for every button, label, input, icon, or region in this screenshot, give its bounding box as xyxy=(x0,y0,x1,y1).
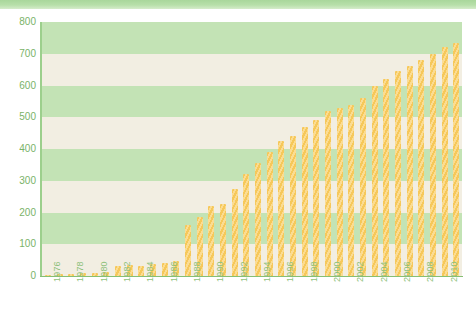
y-axis-tick-label: 100 xyxy=(2,239,36,249)
page-header-strip xyxy=(0,0,476,9)
bar xyxy=(302,127,308,276)
bar xyxy=(442,47,448,276)
x-axis-tick-label: 1978 xyxy=(75,261,85,282)
bar xyxy=(208,206,214,276)
bar xyxy=(360,98,366,276)
x-axis-tick-label: 2008 xyxy=(425,261,435,282)
bar xyxy=(383,79,389,276)
bar xyxy=(255,163,261,276)
bar xyxy=(325,111,331,276)
x-axis-tick-label: 2010 xyxy=(449,261,459,282)
x-axis-tick-label: 1996 xyxy=(285,261,295,282)
bar xyxy=(372,86,378,277)
bar xyxy=(162,263,168,276)
x-axis-tick-label: 1998 xyxy=(309,261,319,282)
x-axis-tick-label: 1990 xyxy=(215,261,225,282)
y-axis-tick-label: 600 xyxy=(2,81,36,91)
x-axis-tick-label: 2000 xyxy=(332,261,342,282)
x-axis-tick-label: 1982 xyxy=(122,261,132,282)
x-axis-tick-label: 1976 xyxy=(52,261,62,282)
y-axis-labels: 0100200300400500600700800 xyxy=(0,0,36,317)
x-axis-tick-label: 2002 xyxy=(355,261,365,282)
x-axis-tick-label: 2004 xyxy=(379,261,389,282)
bar xyxy=(138,266,144,276)
bar xyxy=(278,141,284,276)
bar xyxy=(313,120,319,276)
x-axis-tick-label: 1988 xyxy=(192,261,202,282)
grid-band xyxy=(42,22,462,54)
chart-page: 0100200300400500600700800 19761978198019… xyxy=(0,0,476,317)
y-axis-tick-label: 700 xyxy=(2,49,36,59)
bar xyxy=(115,266,121,276)
bar xyxy=(453,43,459,276)
x-axis-tick-label: 1980 xyxy=(99,261,109,282)
y-axis-tick-label: 400 xyxy=(2,144,36,154)
bar xyxy=(407,66,413,276)
bar xyxy=(185,225,191,276)
bar xyxy=(418,60,424,276)
x-axis-tick-label: 1986 xyxy=(169,261,179,282)
bar xyxy=(337,108,343,276)
x-axis-tick-label: 1992 xyxy=(239,261,249,282)
x-axis-tick-label: 1984 xyxy=(145,261,155,282)
y-axis-tick-label: 200 xyxy=(2,208,36,218)
bar xyxy=(348,105,354,276)
plot-area xyxy=(42,22,462,276)
bar xyxy=(267,152,273,276)
bar xyxy=(430,54,436,276)
x-axis-tick-label: 2006 xyxy=(402,261,412,282)
y-axis-tick-label: 800 xyxy=(2,17,36,27)
y-axis-line xyxy=(40,22,42,277)
x-axis-labels: 1976197819801982198419861988199019921994… xyxy=(0,280,476,317)
bar xyxy=(232,189,238,276)
bar xyxy=(290,136,296,276)
bar xyxy=(395,71,401,276)
y-axis-tick-label: 300 xyxy=(2,176,36,186)
y-axis-tick-label: 500 xyxy=(2,112,36,122)
x-axis-tick-label: 1994 xyxy=(262,261,272,282)
